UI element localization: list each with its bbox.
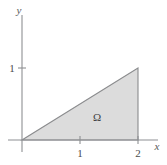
omega-region-label: Ω xyxy=(93,111,101,123)
region-plot-svg: y x 1 1 2 Ω xyxy=(0,0,167,165)
x-axis-label: x xyxy=(154,140,160,152)
x-tick-label-2: 2 xyxy=(135,147,141,159)
figure-container: y x 1 1 2 Ω xyxy=(0,0,167,165)
y-axis-label: y xyxy=(16,4,22,16)
omega-region-shape xyxy=(22,68,138,140)
x-tick-label-1: 1 xyxy=(77,147,83,159)
y-tick-label-1: 1 xyxy=(9,62,15,74)
